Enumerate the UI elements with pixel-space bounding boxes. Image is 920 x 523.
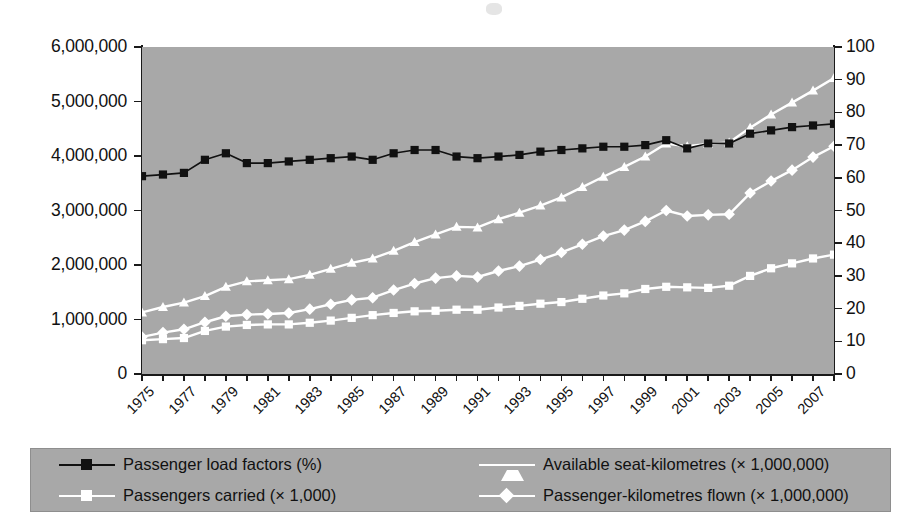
- series-marker: [620, 143, 628, 151]
- series-marker: [222, 149, 230, 157]
- series-marker: [641, 141, 649, 149]
- y-axis-right-tick: [834, 177, 842, 179]
- y-axis-left-tick-label: 1,000,000: [5, 309, 127, 330]
- series-marker: [159, 170, 167, 178]
- legend-key-passenger-kilometres-flown: [479, 486, 535, 506]
- series-marker: [683, 144, 691, 152]
- series-marker: [285, 320, 293, 328]
- legend-column-right: Available seat-kilometres (× 1,000,000) …: [451, 449, 890, 511]
- series-marker: [369, 156, 377, 164]
- square-marker-icon: [81, 490, 92, 501]
- series-marker: [473, 306, 481, 314]
- y-axis-right-tick: [834, 210, 842, 212]
- series-marker: [599, 291, 607, 299]
- series-marker: [201, 156, 209, 164]
- series-marker: [367, 292, 379, 304]
- series-marker: [557, 298, 565, 306]
- series-marker: [786, 164, 798, 176]
- series-marker: [725, 282, 733, 290]
- y-axis-right-tick: [834, 144, 842, 146]
- legend-item-passengers-carried[interactable]: Passengers carried (× 1,000): [31, 480, 451, 511]
- series-marker: [388, 284, 400, 296]
- series-marker: [640, 152, 650, 161]
- legend-item-available-seat-kilometres[interactable]: Available seat-kilometres (× 1,000,000): [451, 449, 890, 480]
- series-marker: [159, 335, 167, 343]
- y-axis-right-tick-label: 60: [846, 167, 906, 188]
- series-marker: [639, 216, 651, 228]
- series-marker: [599, 143, 607, 151]
- series-marker: [348, 314, 356, 322]
- y-axis-right-tick-label: 40: [846, 232, 906, 253]
- series-marker: [201, 327, 209, 335]
- series-line: [142, 78, 834, 312]
- series-marker: [577, 238, 589, 250]
- series-marker: [494, 152, 502, 160]
- y-axis-right-tick-label: 50: [846, 200, 906, 221]
- series-marker: [473, 154, 481, 162]
- series-diamond-3: [142, 140, 834, 342]
- series-marker: [514, 260, 526, 272]
- series-marker: [431, 146, 439, 154]
- series-marker: [725, 139, 733, 147]
- series-marker: [325, 298, 337, 310]
- series-marker: [830, 251, 834, 259]
- series-marker: [222, 322, 230, 330]
- legend-key-available-seat-kilometres: [479, 455, 535, 475]
- y-axis-left-tick-label: 2,000,000: [5, 254, 127, 275]
- series-marker: [681, 210, 693, 222]
- series-marker: [348, 152, 356, 160]
- series-marker: [515, 302, 523, 310]
- series-marker: [660, 205, 672, 217]
- series-marker: [243, 159, 251, 167]
- y-axis-left-tick-label: 3,000,000: [5, 200, 127, 221]
- legend-key-passenger-load-factors: [59, 455, 115, 475]
- series-marker: [828, 140, 834, 152]
- series-triangle-2: [142, 73, 834, 316]
- series-marker: [369, 311, 377, 319]
- chart-legend: Passenger load factors (%) Passengers ca…: [30, 448, 891, 512]
- series-marker: [285, 157, 293, 165]
- series-marker: [472, 271, 484, 283]
- y-axis-left-tick-label: 6,000,000: [5, 36, 127, 57]
- legend-column-left: Passenger load factors (%) Passengers ca…: [31, 449, 451, 511]
- series-marker: [180, 169, 188, 177]
- legend-key-passengers-carried: [59, 486, 115, 506]
- series-marker: [142, 336, 146, 344]
- series-marker: [451, 270, 463, 282]
- series-marker: [430, 272, 442, 284]
- legend-label: Available seat-kilometres (× 1,000,000): [543, 455, 829, 474]
- series-marker: [283, 307, 295, 319]
- series-marker: [220, 310, 232, 322]
- legend-label: Passenger-kilometres flown (× 1,000,000): [543, 486, 849, 505]
- y-axis-right-tick: [834, 341, 842, 343]
- series-marker: [662, 136, 670, 144]
- series-marker: [409, 278, 421, 290]
- y-axis-right-tick-label: 80: [846, 101, 906, 122]
- series-marker: [788, 259, 796, 267]
- series-marker: [199, 316, 211, 328]
- series-marker: [598, 230, 610, 242]
- plot-area: [142, 47, 834, 374]
- y-axis-left-tick-label: 5,000,000: [5, 91, 127, 112]
- series-square-1: [142, 251, 834, 345]
- legend-item-passenger-kilometres-flown[interactable]: Passenger-kilometres flown (× 1,000,000): [451, 480, 890, 511]
- series-marker: [746, 272, 754, 280]
- series-marker: [536, 300, 544, 308]
- series-marker: [306, 156, 314, 164]
- series-marker: [619, 224, 631, 236]
- y-axis-right-tick-label: 30: [846, 265, 906, 286]
- series-marker: [704, 284, 712, 292]
- series-marker: [535, 254, 547, 266]
- series-marker: [683, 283, 691, 291]
- y-axis-right-tick-label: 10: [846, 330, 906, 351]
- series-marker: [808, 86, 818, 95]
- y-axis-right-tick-label: 20: [846, 298, 906, 319]
- y-axis-right-tick-label: 90: [846, 69, 906, 90]
- diamond-marker-icon: [499, 487, 515, 503]
- series-marker: [830, 120, 834, 128]
- y-axis-right-tick: [834, 308, 842, 310]
- square-marker-icon: [81, 459, 92, 470]
- y-axis-left-tick-label: 4,000,000: [5, 145, 127, 166]
- legend-item-passenger-load-factors[interactable]: Passenger load factors (%): [31, 449, 451, 480]
- series-marker: [829, 73, 834, 82]
